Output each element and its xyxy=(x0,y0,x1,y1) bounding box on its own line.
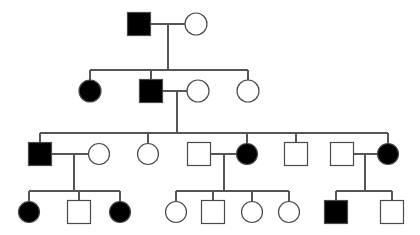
individual-iii-5-female-affected xyxy=(237,144,258,165)
individual-iii-2-female-unaffected xyxy=(89,144,110,165)
individual-iv-7-female-unaffected xyxy=(279,202,300,223)
individual-ii-1-female-affected xyxy=(79,80,101,102)
individual-iv-3-female-affected xyxy=(110,202,131,223)
individual-iii-1-male-affected xyxy=(29,143,52,166)
individual-iii-4-male-unaffected xyxy=(188,143,211,166)
chart-background xyxy=(0,0,420,235)
individual-ii-3-female-unaffected xyxy=(187,80,209,102)
individual-iv-8-male-affected xyxy=(325,201,348,224)
individual-i-2-female-unaffected xyxy=(185,13,207,35)
individual-iv-4-female-unaffected xyxy=(166,202,187,223)
individual-iv-9-male-unaffected xyxy=(381,201,404,224)
individual-ii-2-male-affected xyxy=(140,80,163,103)
individual-iv-2-male-unaffected xyxy=(68,201,91,224)
individual-iv-6-female-unaffected xyxy=(242,202,263,223)
individual-i-1-male-affected xyxy=(128,13,151,36)
individual-iii-3-female-unaffected xyxy=(138,144,159,165)
pedigree-chart xyxy=(0,0,420,235)
individual-iii-8-female-affected xyxy=(378,144,399,165)
individual-iii-6-male-unaffected xyxy=(285,143,308,166)
individual-ii-4-female-unaffected xyxy=(237,80,259,102)
pedigree-canvas xyxy=(0,0,420,235)
individual-iv-1-female-affected xyxy=(19,202,40,223)
individual-iv-5-male-unaffected xyxy=(202,201,225,224)
individual-iii-7-male-unaffected xyxy=(331,143,354,166)
